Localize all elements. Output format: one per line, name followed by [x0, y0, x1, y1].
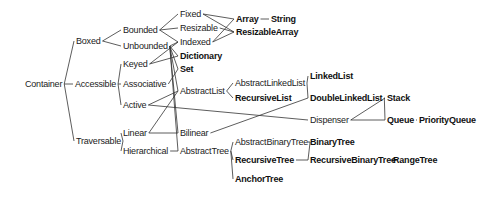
edge-resizable-resizable_array	[220, 28, 234, 32]
node-container: Container	[25, 79, 62, 90]
node-recursive-tree: RecursiveTree	[235, 155, 294, 166]
node-priority-queue: PriorityQueue	[419, 115, 476, 126]
node-indexed: Indexed	[180, 37, 211, 48]
node-anchor-tree: AnchorTree	[235, 174, 283, 185]
node-hierarchical: Hierarchical	[123, 146, 168, 157]
node-resizable: Resizable	[180, 23, 218, 34]
node-accessible: Accessible	[75, 79, 116, 90]
node-abstract-list: AbstractList	[180, 86, 225, 97]
node-double-linked-list: DoubleLinkedList	[310, 93, 382, 104]
node-dispenser: Dispenser	[310, 115, 349, 126]
edge-abstract_linked_list-double_linked_list	[307, 83, 308, 98]
node-traversable: Traversable	[76, 136, 121, 147]
node-abstract-binary-tree: AbstractBinaryTree	[235, 137, 308, 148]
edge-bounded-fixed	[160, 14, 178, 30]
node-array: Array	[236, 14, 259, 25]
edge-unbounded-abstract_tree	[170, 46, 178, 151]
node-associative: Associative	[123, 79, 166, 90]
node-stack: Stack	[387, 93, 410, 104]
edge-accessible-active	[118, 84, 121, 105]
edge-unbounded-abstract_list	[170, 46, 178, 91]
edge-active-dispenser	[148, 105, 308, 120]
edge-abstract_list-abstract_linked_list	[227, 83, 233, 91]
node-boxed: Boxed	[76, 36, 101, 47]
node-recursive-binary-tree: RecursiveBinaryTree	[310, 155, 396, 166]
node-active: Active	[123, 100, 146, 111]
edge-keyed-dictionary	[150, 56, 178, 64]
edge-abstract_list-recursive_list	[227, 91, 233, 98]
node-fixed: Fixed	[180, 9, 201, 20]
edge-container-boxed	[64, 41, 74, 84]
node-binary-tree: BinaryTree	[310, 137, 355, 148]
edge-container-traversable	[64, 84, 74, 141]
node-queue: Queue	[387, 115, 414, 126]
edge-indexed-resizable_array	[213, 32, 234, 42]
edge-accessible-keyed	[118, 64, 121, 84]
node-string: String	[271, 14, 296, 25]
node-unbounded: Unbounded	[123, 41, 168, 52]
node-bounded: Bounded	[123, 25, 158, 36]
node-linear: Linear	[123, 128, 147, 139]
node-abstract-linked-list: AbstractLinkedList	[235, 78, 305, 89]
class-hierarchy-diagram: ContainerBoxedAccessibleTraversableBound…	[0, 0, 491, 198]
edge-abstract_linked_list-linked_list	[307, 76, 308, 83]
edge-double_linked_list-queue	[384, 98, 385, 120]
edge-abstract_tree-abstract_binary_tree	[231, 142, 233, 151]
node-bilinear: Bilinear	[180, 128, 208, 139]
edge-linear-abstract_list	[149, 91, 178, 133]
edge-boxed-bounded	[103, 30, 121, 41]
node-resizable-array: ResizableArray	[236, 27, 298, 38]
node-keyed: Keyed	[123, 59, 148, 70]
node-range-tree: RangeTree	[393, 155, 437, 166]
edge-boxed-unbounded	[103, 41, 121, 46]
node-abstract-tree: AbstractTree	[180, 146, 229, 157]
node-set: Set	[180, 64, 193, 75]
edge-bounded-resizable	[160, 28, 178, 30]
node-recursive-list: RecursiveList	[235, 93, 291, 104]
node-dictionary: Dictionary	[180, 51, 222, 62]
node-linked-list: LinkedList	[310, 71, 353, 82]
